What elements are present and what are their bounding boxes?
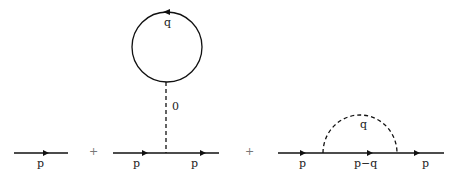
stem-momentum-label: 0	[172, 100, 179, 113]
outgoing-momentum-label: p	[422, 157, 429, 170]
arrow-icon	[414, 150, 420, 156]
plus-operator: +	[245, 145, 254, 158]
outgoing-momentum-label: p	[191, 157, 198, 170]
arrow-icon	[300, 150, 306, 156]
incoming-momentum-label: p	[299, 157, 306, 170]
arrow-icon	[200, 150, 206, 156]
sunset-diagram: q p p−q p	[278, 115, 444, 170]
feynman-diagram: p + q 0 p p + q p p−q p	[0, 0, 460, 175]
arrow-icon	[367, 150, 373, 156]
free-propagator: p	[14, 150, 68, 170]
loop-arrow-icon	[163, 9, 170, 15]
loop-momentum-label: q	[164, 16, 171, 29]
internal-momentum-label: p−q	[354, 157, 377, 170]
arrow-icon	[142, 150, 148, 156]
arc-momentum-label: q	[360, 118, 367, 131]
incoming-momentum-label: p	[133, 157, 140, 170]
tadpole-diagram: q 0 p p	[113, 9, 219, 170]
momentum-label: p	[37, 157, 44, 170]
plus-operator: +	[89, 145, 98, 158]
arrow-icon	[43, 150, 49, 156]
